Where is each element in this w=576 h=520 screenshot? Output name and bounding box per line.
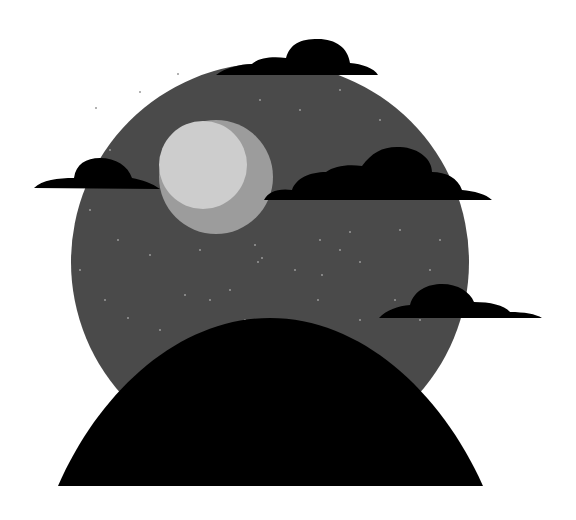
star-icon [319, 239, 321, 241]
star-icon [339, 249, 341, 251]
star-icon [257, 261, 259, 263]
star-icon [317, 299, 319, 301]
star-icon [321, 274, 323, 276]
star-icon [149, 254, 151, 256]
star-icon [109, 149, 111, 151]
star-icon [177, 73, 179, 75]
star-icon [199, 249, 201, 251]
star-icon [209, 299, 211, 301]
star-icon [117, 239, 119, 241]
star-icon [359, 261, 361, 263]
star-icon [261, 257, 263, 259]
star-icon [127, 317, 129, 319]
star-icon [95, 107, 97, 109]
star-icon [254, 244, 256, 246]
star-icon [429, 269, 431, 271]
star-icon [104, 299, 106, 301]
star-icon [79, 269, 81, 271]
star-icon [294, 269, 296, 271]
illustration-canvas [0, 0, 576, 520]
star-icon [299, 109, 301, 111]
star-icon [394, 299, 396, 301]
star-icon [399, 229, 401, 231]
star-icon [229, 289, 231, 291]
moon-icon [159, 121, 247, 209]
night-scene [0, 0, 576, 520]
star-icon [339, 89, 341, 91]
star-icon [159, 329, 161, 331]
star-icon [259, 99, 261, 101]
star-icon [184, 294, 186, 296]
cloud-top-icon [216, 39, 378, 75]
star-icon [439, 239, 441, 241]
star-icon [379, 119, 381, 121]
star-icon [349, 231, 351, 233]
star-icon [89, 209, 91, 211]
star-icon [419, 319, 421, 321]
star-icon [139, 91, 141, 93]
star-icon [359, 319, 361, 321]
